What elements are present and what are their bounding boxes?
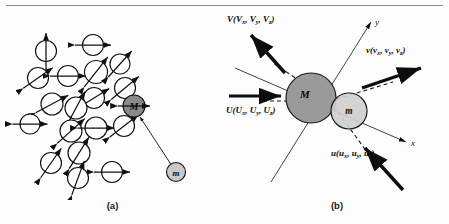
particle-m-label-a: m <box>172 168 179 178</box>
spin-site <box>75 35 111 56</box>
panel-a: M m (a) <box>0 0 225 224</box>
panel-b-caption: (b) <box>225 200 449 211</box>
axis-y-label: y <box>374 17 379 27</box>
panel-b: y x M m <box>225 0 449 224</box>
spin-site <box>94 162 130 183</box>
spin-site <box>57 119 85 144</box>
spin-site <box>84 57 107 87</box>
particle-M-label-b: M <box>299 88 311 100</box>
spin-site-group <box>13 33 139 195</box>
panel-b-graphic: y x M m <box>225 0 449 200</box>
particle-M-label-a: M <box>129 101 140 112</box>
spin-site <box>108 51 131 77</box>
vector-V-arrow <box>251 35 285 73</box>
spin-site <box>50 66 86 87</box>
trajectory-line-m-to-M <box>140 117 172 166</box>
axis-x-label: x <box>410 138 415 148</box>
spin-site <box>41 148 62 177</box>
vector-v-label: v(vx, vy, vz) <box>366 45 406 56</box>
vector-v-arrow <box>362 68 421 88</box>
spin-site <box>110 115 138 137</box>
vector-U-label: U(Ux, Uy, Uz) <box>226 105 276 116</box>
spin-site <box>36 93 69 115</box>
spin-site <box>13 114 48 134</box>
spin-site <box>36 33 57 69</box>
particle-m-panel-b: m <box>331 93 367 129</box>
particle-M-panel-b: M <box>286 73 336 123</box>
spin-site <box>23 68 52 89</box>
particle-m-panel-a: m <box>167 163 186 182</box>
panel-a-caption: (a) <box>0 200 225 211</box>
figure-container: M m (a) y x <box>0 0 449 224</box>
vector-u-label: u(ux, uy, uz) <box>331 148 375 159</box>
vector-V-label: V(Vx, Vy, Vz) <box>227 14 275 25</box>
panel-a-graphic: M m <box>0 0 225 200</box>
particle-m-label-b: m <box>345 106 352 116</box>
